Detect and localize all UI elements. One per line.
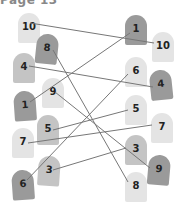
match-line-8 — [53, 50, 128, 182]
match-line-4 — [29, 66, 153, 87]
match-line-7 — [28, 125, 152, 143]
match-line-9 — [55, 92, 150, 168]
match-line-6 — [27, 74, 128, 180]
connection-lines — [0, 0, 175, 209]
match-line-10 — [30, 23, 154, 43]
match-line-1 — [30, 33, 130, 102]
